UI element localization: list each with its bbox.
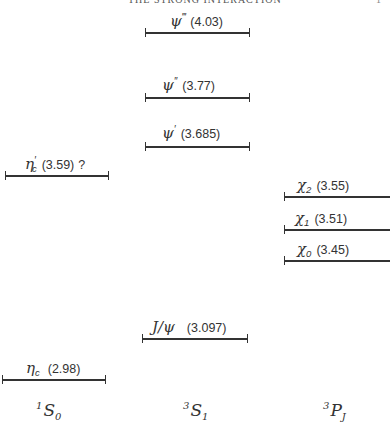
page-number: 1 [376,0,381,5]
mass-value: (3.59) [42,158,75,172]
energy-level-eta-c-prime [5,171,109,181]
energy-level-chi-2 [284,192,390,202]
level-label-psi-double-prime: ψ″(3.77) [162,76,215,94]
mass-value: (4.03) [190,15,223,29]
energy-level-chi-1 [284,225,390,235]
level-label-psi-prime: ψ′(3.685) [162,124,220,142]
energy-level-psi-triple-prime [145,28,250,38]
energy-level-j-psi [142,334,248,344]
mass-value: (3.51) [314,212,347,226]
psi-symbol: ψ [162,124,174,142]
mass-value: (3.685) [181,127,221,141]
column-label-3PJ: 3PJ [323,400,346,420]
psi-symbol: ψ [162,76,174,94]
column-label-3S1: 3S1 [183,400,208,420]
mass-value: (3.097) [187,321,227,335]
energy-level-psi-prime [145,142,250,152]
uncertain-marker: ? [78,158,85,172]
energy-level-chi-0 [284,256,390,266]
mass-value: (3.77) [182,79,215,93]
mass-value: (2.98) [48,362,81,376]
energy-level-eta-c [2,375,106,385]
energy-level-psi-double-prime [145,93,250,103]
column-label-1S0: 1S0 [36,400,61,420]
mass-value: (3.55) [316,179,349,193]
mass-value: (3.45) [316,243,349,257]
running-title: THE STRONG INTERACTION [128,0,282,5]
